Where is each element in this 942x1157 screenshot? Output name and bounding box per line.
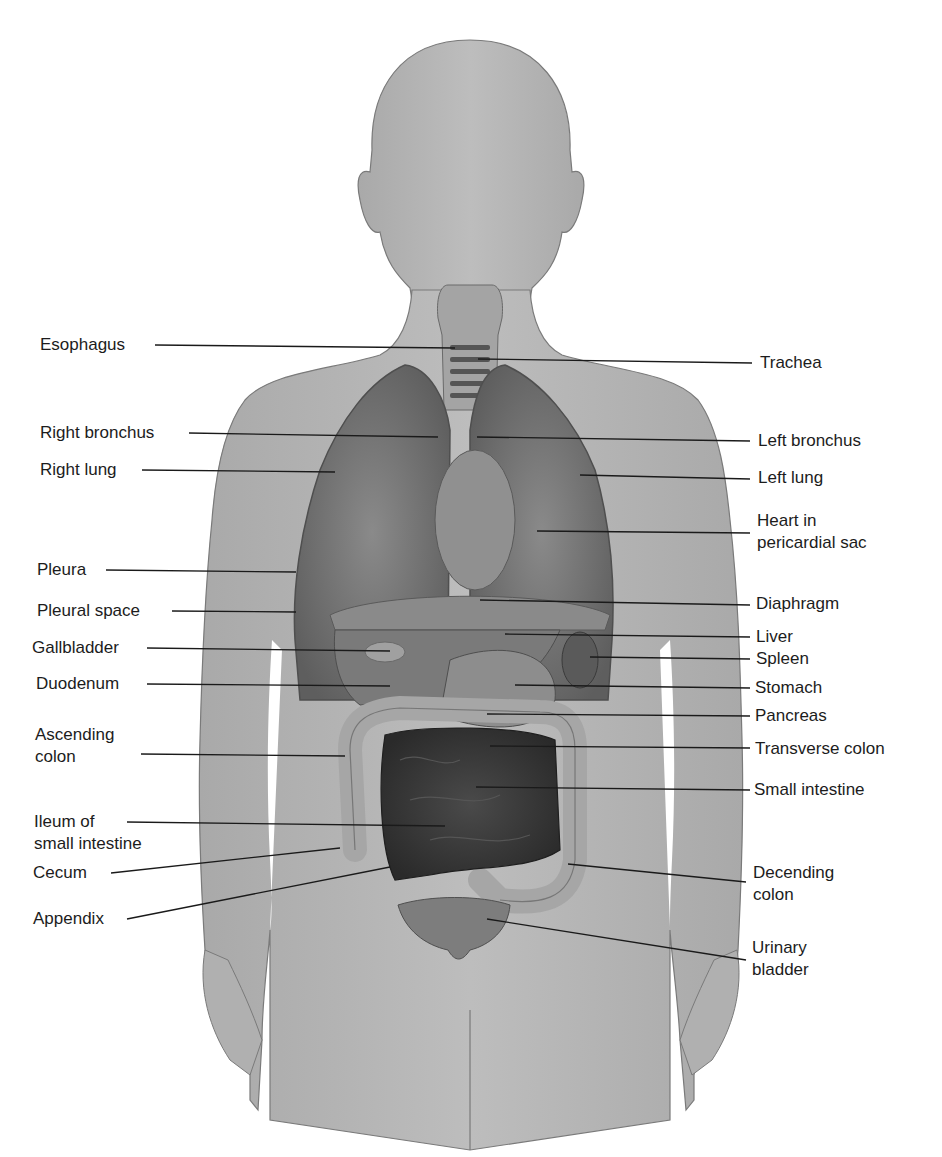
label-heart: Heart in pericardial sac [757,510,867,554]
label-left-bronchus: Left bronchus [758,431,861,451]
label-pleural-space: Pleural space [37,601,140,621]
label-esophagus: Esophagus [40,335,125,355]
small-intestine-shape [381,728,560,880]
label-right-bronchus: Right bronchus [40,423,154,443]
label-right-lung: Right lung [40,460,117,480]
label-gallbladder: Gallbladder [32,638,119,658]
heart-shape [435,450,515,590]
label-ascending-colon: Ascending colon [35,724,114,768]
label-pleura: Pleura [37,560,86,580]
label-descending-colon: Decending colon [753,862,834,906]
body-illustration [0,0,942,1157]
label-transverse-colon: Transverse colon [755,739,885,759]
label-liver: Liver [756,627,793,647]
label-spleen: Spleen [756,649,809,669]
label-appendix: Appendix [33,909,104,929]
label-cecum: Cecum [33,863,87,883]
label-duodenum: Duodenum [36,674,119,694]
label-pancreas: Pancreas [755,706,827,726]
label-trachea: Trachea [760,353,822,373]
label-diaphragm: Diaphragm [756,594,839,614]
anatomy-figure: Esophagus Right bronchus Right lung Pleu… [0,0,942,1157]
label-urinary-bladder: Urinary bladder [752,937,809,981]
label-small-intestine: Small intestine [754,780,865,800]
label-left-lung: Left lung [758,468,823,488]
label-stomach: Stomach [755,678,822,698]
label-ileum: Ileum of small intestine [34,811,142,855]
